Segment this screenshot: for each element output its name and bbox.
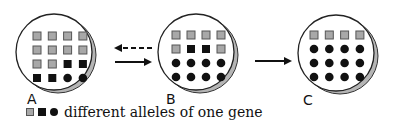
black-circle-allele	[187, 59, 196, 68]
black-circle-allele	[202, 59, 211, 68]
gray-square-allele	[187, 31, 195, 39]
black-circle-allele	[63, 74, 72, 83]
population-a	[16, 14, 96, 93]
gray-square-allele	[48, 32, 56, 40]
black-circle-allele	[79, 74, 88, 83]
gray-square-allele	[48, 60, 56, 68]
black-circle-allele	[310, 59, 319, 68]
black-circle-allele	[356, 73, 365, 82]
gray-square-allele	[172, 45, 180, 53]
black-circle-allele	[172, 73, 181, 82]
gray-square-allele	[79, 46, 87, 54]
black-circle-allele	[325, 73, 334, 82]
legend-text: different alleles of one gene	[64, 105, 263, 119]
black-circle-allele	[310, 45, 319, 54]
black-circle-allele	[217, 59, 226, 68]
population-c	[298, 15, 378, 94]
black-circle-allele	[325, 45, 334, 54]
gray-square-allele	[341, 31, 349, 39]
black-square-icon	[38, 108, 46, 116]
black-square-allele	[48, 74, 56, 82]
black-circle-allele	[340, 73, 349, 82]
black-square-allele	[79, 60, 87, 68]
gray-square-allele	[33, 46, 41, 54]
population-b	[158, 14, 238, 93]
black-square-allele	[187, 45, 195, 53]
black-circle-allele	[340, 45, 349, 54]
gray-square-allele	[356, 31, 364, 39]
black-circle-icon	[50, 108, 58, 116]
population-label-c: C	[303, 93, 313, 107]
black-square-allele	[202, 45, 210, 53]
black-circle-allele	[172, 59, 181, 68]
gray-square-icon	[26, 108, 34, 116]
gray-square-allele	[325, 31, 333, 39]
black-circle-allele	[187, 73, 196, 82]
gray-square-allele	[64, 46, 72, 54]
gray-square-allele	[217, 31, 225, 39]
gray-square-allele	[33, 60, 41, 68]
black-square-allele	[33, 74, 41, 82]
black-circle-allele	[325, 59, 334, 68]
population-label-a: A	[27, 92, 37, 106]
black-circle-allele	[217, 73, 226, 82]
gray-square-allele	[79, 32, 87, 40]
gray-square-allele	[310, 31, 318, 39]
gray-square-allele	[202, 31, 210, 39]
gray-square-allele	[64, 32, 72, 40]
gray-square-allele	[33, 32, 41, 40]
gray-square-allele	[172, 31, 180, 39]
black-circle-allele	[310, 73, 319, 82]
black-circle-allele	[356, 59, 365, 68]
gray-square-allele	[217, 45, 225, 53]
black-circle-allele	[202, 73, 211, 82]
legend: different alleles of one gene	[26, 105, 263, 119]
black-square-allele	[64, 60, 72, 68]
black-circle-allele	[356, 45, 365, 54]
black-circle-allele	[340, 59, 349, 68]
gray-square-allele	[48, 46, 56, 54]
